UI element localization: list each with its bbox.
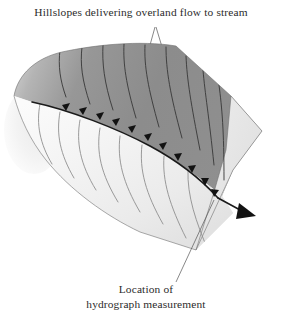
caption-line-2: hydrograph measurement	[86, 298, 206, 310]
figure-container: Hillslopes delivering overland flow to s…	[0, 0, 283, 322]
top-annotation-label: Hillslopes delivering overland flow to s…	[34, 6, 247, 18]
caption-line-1: Location of	[119, 283, 174, 295]
hillslope-diagram: Hillslopes delivering overland flow to s…	[0, 0, 283, 322]
outlet-arrowhead	[236, 203, 256, 219]
